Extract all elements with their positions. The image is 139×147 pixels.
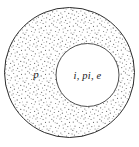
inner-region-label: i, pi, e bbox=[74, 70, 102, 81]
set-diagram: p i, pi, e bbox=[0, 0, 139, 147]
outer-region-label: p bbox=[32, 68, 39, 80]
diagram-canvas: p i, pi, e bbox=[0, 0, 139, 147]
